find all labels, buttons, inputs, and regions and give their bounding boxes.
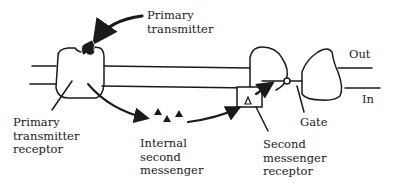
gate-pointer <box>297 86 304 112</box>
membrane-inner-mid <box>102 86 250 88</box>
second-messenger-receptor-pointer <box>256 107 268 131</box>
label-in: In <box>362 93 374 107</box>
gate-hinge <box>284 78 290 84</box>
label-internal-second-messenger: Internal second messenger <box>140 137 203 178</box>
second-messenger-molecules <box>154 108 183 122</box>
label-primary-transmitter: Primary transmitter <box>147 9 213 36</box>
label-second-messenger-receptor: Second messenger receptor <box>263 138 326 179</box>
label-primary-transmitter-receptor: Primary transmitter receptor <box>13 116 79 157</box>
messenger-triangle-3 <box>175 110 183 117</box>
primary-receptor-pointer <box>52 81 72 110</box>
membrane-outer-mid <box>104 66 250 68</box>
primary-transmitter-arrow <box>96 16 142 40</box>
arrow-to-second-receptor <box>188 108 238 122</box>
label-gate: Gate <box>300 116 327 130</box>
arrow-to-second-messenger <box>88 84 146 118</box>
messenger-triangle-2 <box>163 115 171 122</box>
gate-channel-right-shape <box>302 49 342 100</box>
label-out: Out <box>349 48 370 62</box>
primary-transmitter-molecule <box>82 40 95 55</box>
primary-transmitter-receptor-shape <box>56 47 104 98</box>
messenger-triangle-1 <box>154 108 162 115</box>
